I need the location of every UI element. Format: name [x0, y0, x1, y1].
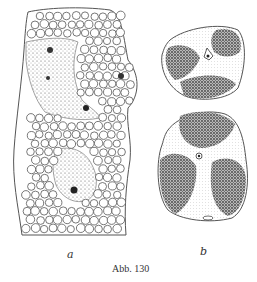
round-cell	[49, 191, 57, 199]
round-cell	[80, 131, 88, 139]
round-cell	[23, 207, 31, 215]
round-cell	[85, 88, 93, 96]
round-cell	[53, 131, 61, 139]
round-cell	[90, 46, 98, 54]
round-cell	[107, 216, 116, 225]
round-cell	[95, 225, 103, 233]
round-cell	[45, 166, 52, 173]
round-cell	[27, 132, 35, 140]
round-cell	[108, 149, 115, 156]
round-cell	[121, 89, 129, 97]
round-cell	[27, 165, 35, 173]
round-cell	[91, 13, 98, 20]
nucleolus	[198, 155, 200, 157]
round-cell	[116, 216, 125, 225]
round-cell	[77, 208, 85, 216]
round-cell	[98, 97, 106, 105]
round-cell	[85, 20, 93, 28]
round-cell	[77, 89, 84, 96]
round-cell	[90, 200, 98, 208]
round-cell	[94, 121, 103, 130]
round-cell	[107, 47, 115, 55]
nucleus	[46, 76, 50, 80]
round-cell	[113, 156, 121, 164]
round-cell	[36, 29, 44, 37]
round-cell	[31, 207, 40, 216]
round-cell	[63, 131, 71, 139]
round-cell	[104, 88, 112, 96]
panel-label-a: a	[67, 248, 74, 261]
round-cell	[36, 165, 44, 173]
round-cell	[114, 191, 121, 198]
round-cell	[90, 29, 99, 38]
round-cell	[99, 13, 107, 21]
round-cell	[54, 12, 62, 20]
nucleus	[83, 105, 89, 111]
round-cell	[99, 29, 106, 36]
round-cell	[91, 132, 99, 140]
panel-a-tissue	[14, 8, 137, 235]
round-cell	[45, 132, 52, 139]
round-cell	[72, 130, 80, 138]
round-cell	[116, 80, 125, 89]
cell-lower	[158, 112, 247, 221]
round-cell	[90, 63, 99, 72]
round-cell	[45, 182, 54, 191]
round-cell	[108, 182, 116, 190]
round-cell	[94, 72, 103, 81]
round-cell	[59, 122, 67, 130]
round-cell	[113, 122, 121, 130]
round-cell	[77, 55, 85, 63]
figure-illustration	[0, 0, 257, 282]
round-cell	[68, 207, 75, 214]
panel-label-b: b	[200, 245, 207, 258]
round-cell	[113, 224, 122, 233]
round-cell	[59, 139, 67, 147]
round-cell	[112, 207, 120, 215]
round-cell	[116, 11, 125, 20]
round-cell	[117, 47, 125, 55]
round-cell	[82, 199, 89, 206]
round-cell	[72, 12, 80, 20]
round-cell	[63, 215, 71, 223]
figure-caption: Abb. 130	[112, 263, 149, 274]
round-cell	[109, 30, 117, 38]
round-cell	[45, 148, 53, 156]
round-cell	[41, 139, 49, 147]
round-cell	[49, 224, 57, 232]
round-cell	[58, 224, 66, 232]
round-cell	[63, 12, 71, 20]
round-cell	[103, 173, 111, 181]
round-cell	[72, 216, 80, 224]
cell-upper	[162, 26, 245, 99]
round-cell	[117, 165, 125, 173]
round-cell	[26, 215, 35, 224]
round-cell	[41, 174, 49, 182]
round-cell	[54, 199, 62, 207]
round-cell	[36, 148, 43, 155]
round-cell	[64, 30, 72, 38]
round-cell	[59, 207, 67, 215]
round-cell	[104, 105, 112, 113]
round-cell	[108, 63, 116, 71]
round-cell	[46, 12, 54, 20]
round-cell	[31, 140, 39, 148]
round-cell	[32, 173, 40, 181]
round-cell	[27, 29, 36, 38]
round-cell	[50, 156, 58, 164]
round-cell	[37, 217, 45, 225]
round-cell	[44, 114, 52, 122]
round-cell	[81, 80, 89, 88]
round-cell	[27, 148, 35, 156]
round-cell	[46, 216, 54, 224]
round-cell	[116, 28, 124, 36]
round-cell	[90, 216, 99, 225]
round-cell	[99, 165, 107, 173]
round-cell	[125, 63, 133, 71]
round-cell	[40, 208, 48, 216]
round-cell	[99, 113, 107, 121]
round-cell	[32, 191, 40, 199]
round-cell	[28, 183, 35, 190]
round-cell	[27, 114, 36, 123]
round-cell	[94, 156, 103, 165]
